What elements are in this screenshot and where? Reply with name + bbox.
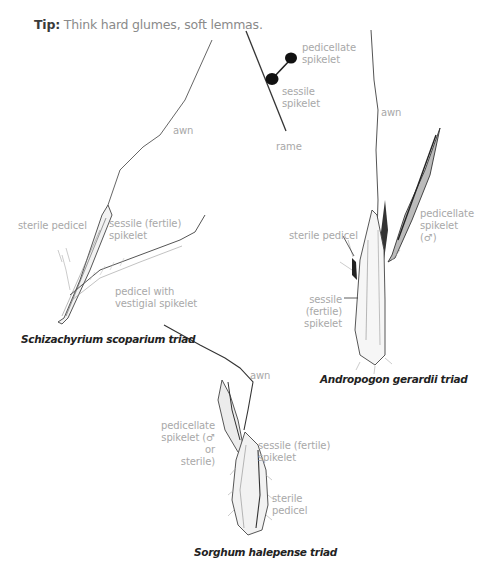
schematic-sessile-label: sessilespikelet [282,86,320,110]
label-line: pedicel [272,505,307,517]
label-line: pedicellate [160,420,215,432]
label-line: spikelet [302,54,356,66]
label-line: pedicellate [302,42,356,54]
schematic-pedicellate-label: pedicellatespikelet [302,42,356,66]
schizachyrium-pedicel-label: pedicel withvestigial spikelet [115,286,197,310]
schizachyrium-sessile-label: sessile (fertile)spikelet [109,218,181,242]
schizachyrium-caption: Schizachyrium scoparium triad [21,333,195,345]
label-line: sessile [282,86,320,98]
label-line: sterile) [160,456,215,468]
andropogon-illustration [340,30,440,374]
botanical-illustrations [0,0,482,570]
andropogon-sterile-pedicel-label: sterile pedicel [289,230,358,242]
schematic-diagram [246,31,297,131]
schizachyrium-awn-label: awn [173,125,193,137]
schizachyrium-illustration [58,40,212,324]
sorghum-sessile-label: sessile (fertile)spikelet [258,440,330,464]
label-line: spikelet [258,452,330,464]
label-line: spikelet [109,230,181,242]
schizachyrium-sterile-pedicel-label: sterile pedicel [18,220,87,232]
andropogon-sessile-label: sessile (fertile)spikelet [282,294,342,330]
label-line: (♂) [420,232,474,244]
schematic-rame-label: rame [276,141,302,153]
label-line: spikelet [420,220,474,232]
label-line: spikelet (♂ or [160,432,215,456]
label-line: sessile (fertile) [258,440,330,452]
andropogon-caption: Andropogon gerardii triad [320,373,467,385]
label-line: sterile [272,493,307,505]
label-line: sessile (fertile) [109,218,181,230]
sorghum-pedicellate-label: pedicellatespikelet (♂ orsterile) [160,420,215,468]
sorghum-caption: Sorghum halepense triad [194,546,337,558]
label-line: vestigial spikelet [115,298,197,310]
label-line: spikelet [282,98,320,110]
andropogon-pedicellate-label: pedicellatespikelet(♂) [420,208,474,244]
label-line: sessile (fertile) [282,294,342,318]
label-line: spikelet [282,318,342,330]
label-line: pedicel with [115,286,197,298]
sorghum-awn-label: awn [250,370,270,382]
andropogon-awn-label: awn [381,107,401,119]
label-line: pedicellate [420,208,474,220]
sorghum-sterile-pedicel-label: sterilepedicel [272,493,307,517]
